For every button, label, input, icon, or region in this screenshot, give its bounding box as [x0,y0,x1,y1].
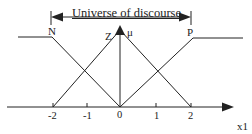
x-axis-arrowhead-icon [222,103,234,112]
set-label-n: N [48,26,56,37]
tick-label-1: 1 [154,111,159,122]
tick-label-minus-1: -1 [83,111,92,122]
tick-label-2: 2 [188,111,193,122]
universe-label: Universe of discourse [72,7,181,20]
y-axis-label: μ [127,27,133,38]
set-label-p: P [187,27,193,38]
fuzzy-membership-diagram [0,0,252,134]
set-z-curve [53,30,191,107]
mu-arrowhead-icon [115,25,125,35]
tick-label-minus-2: -2 [48,111,57,122]
set-label-z: Z [105,31,112,42]
universe-left-arrowhead-icon [51,13,63,22]
x-axis-label: x1 [237,121,248,132]
tick-label-0: 0 [117,110,122,121]
